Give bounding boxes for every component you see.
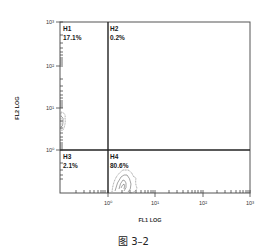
figure-caption: 图 3–2 — [0, 233, 267, 248]
y-tick-label: 10² — [46, 63, 54, 69]
y-tick-label: 10³ — [46, 19, 54, 25]
contour-h4 — [112, 170, 137, 193]
quadrant-h3-percent: 2.1% — [63, 162, 78, 169]
x-axis-title: FL1 LOG — [138, 217, 161, 223]
quadrant-h2-id: H2 — [110, 25, 119, 32]
quadrant-h4-id: H4 — [110, 153, 119, 160]
quadrant-h1-percent: 17.1% — [63, 34, 82, 41]
y-tick-label: 10⁰ — [46, 147, 55, 153]
quadrant-h2-percent: 0.2% — [110, 34, 125, 41]
y-tick-label: 10¹ — [46, 105, 54, 111]
y-axis-title: FL2 LOG — [14, 96, 20, 119]
quadrant-h3-id: H3 — [63, 153, 72, 160]
quadrant-h4-percent: 80.6% — [110, 162, 129, 169]
x-tick-label: 10¹ — [151, 200, 159, 206]
x-tick-label: 10³ — [246, 200, 254, 206]
plot-frame — [60, 22, 250, 193]
flow-cytometry-plot: 10³ 10² 10¹ 10⁰ 10⁰ 10¹ 10² 10³ FL1 LOG … — [0, 0, 267, 251]
quadrant-h1-id: H1 — [63, 25, 72, 32]
x-tick-label: 10⁰ — [104, 200, 113, 206]
x-tick-label: 10² — [199, 200, 207, 206]
